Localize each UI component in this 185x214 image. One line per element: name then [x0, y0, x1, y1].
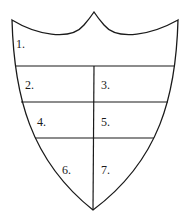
divider-v	[93, 66, 94, 210]
section-1-label: 1.	[16, 37, 25, 51]
shield-outline	[12, 12, 178, 210]
section-2-label: 2.	[25, 78, 34, 92]
section-4-label: 4.	[37, 115, 46, 129]
shield-diagram: 1. 2. 3. 4. 5. 6. 7.	[0, 0, 185, 214]
section-5-label: 5.	[101, 115, 110, 129]
section-6-label: 6.	[62, 163, 71, 177]
section-7-label: 7.	[101, 163, 110, 177]
section-3-label: 3.	[101, 78, 110, 92]
